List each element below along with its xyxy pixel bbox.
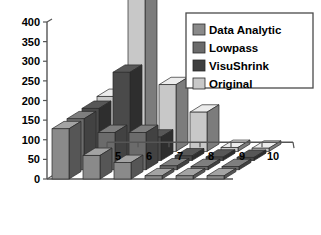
x-tick-label: 5 <box>115 150 121 162</box>
bar-front-face <box>190 112 207 151</box>
legend-swatch-original <box>193 78 205 89</box>
bar-front-face <box>207 176 224 179</box>
x-tick-label: 10 <box>267 150 279 162</box>
bar-data-analytic-cat-6 <box>83 148 112 179</box>
x-tick-label: 7 <box>177 150 183 162</box>
bar-original-cat-8 <box>190 105 219 152</box>
y-tick-label: 250 <box>22 75 40 87</box>
y-tick-label: 350 <box>22 36 40 48</box>
legend-label-data-analytic: Data Analytic <box>209 24 282 36</box>
bar-front-face <box>176 176 193 179</box>
bar-front-face <box>145 176 162 179</box>
y-tick-label: 300 <box>22 55 40 67</box>
bar-front-face <box>52 129 69 179</box>
chart-legend: Data AnalyticLowpassVisuShrinkOriginal <box>186 13 313 90</box>
x-tick-label: 8 <box>208 150 214 162</box>
bar-side-face <box>146 125 158 170</box>
y-tick-label: 100 <box>22 134 40 146</box>
y-tick-label: 150 <box>22 114 40 126</box>
bar-side-face <box>69 121 81 179</box>
legend-swatch-visushrink <box>193 60 205 71</box>
legend-swatch-data-analytic <box>193 24 205 35</box>
x-tick-label: 9 <box>239 150 245 162</box>
chart-3d-bar: 050100150200250300350400 5678910 Data An… <box>0 0 321 235</box>
legend-swatch-lowpass <box>193 42 205 53</box>
y-tick-label: 200 <box>22 95 40 107</box>
bar-front-face <box>114 163 131 179</box>
chart-canvas: 050100150200250300350400 5678910 Data An… <box>0 0 321 235</box>
y-tick-label: 0 <box>34 173 40 185</box>
bar-front-face <box>83 155 100 179</box>
bar-side-face <box>207 105 219 152</box>
x-tick-label: 6 <box>146 150 152 162</box>
legend-label-original: Original <box>209 78 252 90</box>
y-tick-label: 400 <box>22 16 40 28</box>
y-tick-label: 50 <box>28 153 40 165</box>
legend-label-lowpass: Lowpass <box>209 42 258 54</box>
bar-data-analytic-cat-5 <box>52 121 81 179</box>
legend-label-visushrink: VisuShrink <box>209 60 269 72</box>
